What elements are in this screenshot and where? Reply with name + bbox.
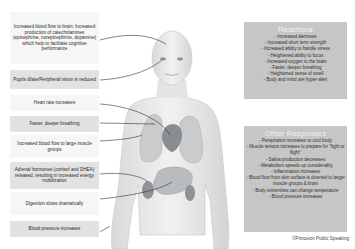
label-digestion: Digestion slows dramatically <box>10 192 99 215</box>
response-item: - Blood flow from skin surface is divert… <box>246 175 345 187</box>
other-responses-title: Other Responses <box>246 129 345 138</box>
label-heart-rate: Heart rate increases <box>10 95 99 111</box>
copyright-credit: ©Princeton Public Speaking <box>292 236 349 241</box>
head-shape <box>152 31 192 85</box>
label-adrenal: Adrenal hormones (cortisol and DHEA) rel… <box>10 162 99 189</box>
other-responses-panel: Other Responses - Perspiration increases… <box>244 126 347 232</box>
label-blood-pressure: Blood pressure increases <box>10 221 99 237</box>
label-brain: Increased blood flow to brain; Increased… <box>10 12 99 64</box>
reactions-panel: Reactions - Increased alertness - Increa… <box>244 22 347 99</box>
label-muscle-blood-flow: Increased blood flow to large muscle gro… <box>10 135 99 158</box>
reactions-title: Reactions <box>246 25 345 34</box>
eye-right <box>177 58 183 61</box>
response-item: - Body extremities can change temperatur… <box>246 188 345 194</box>
eye-left <box>160 58 166 61</box>
cropped-title-fragment: ‾‾‾‾‾‾‾‾ <box>231 0 250 3</box>
kidney-right <box>185 185 195 201</box>
label-breathing: Faster, deeper breathing <box>10 116 99 132</box>
response-item: - Muscle tension increases to prepare fo… <box>246 144 345 156</box>
reaction-item: - Body and mind are hyper-alert <box>246 77 345 83</box>
label-pupils: Pupils dilate/Peripheral vision is reduc… <box>10 70 99 89</box>
response-item: - Blood pressure increases <box>246 194 345 200</box>
